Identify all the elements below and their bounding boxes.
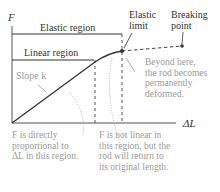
- beyond-note: Beyond here,the rod becomes permanentlyd…: [145, 57, 207, 99]
- breaking-point-label: Breakingpoint: [171, 9, 208, 31]
- slope-label: Slope k: [16, 71, 46, 81]
- elastic-limit-point: [120, 49, 124, 53]
- nonlinear-note: F is not linear inthis region, but the r…: [99, 130, 170, 172]
- force-curve: [12, 51, 122, 123]
- elastic-region-label: Elastic region: [40, 23, 95, 33]
- delta-l-axis-label: ΔL: [183, 118, 196, 129]
- f-axis-label: F: [8, 12, 15, 23]
- linear-region-label: Linear region: [24, 48, 78, 58]
- breaking-point-pointer: [182, 32, 183, 44]
- breaking-point: [180, 44, 184, 48]
- plastic-dashed-curve: [122, 46, 182, 51]
- slope-pointer: [38, 85, 46, 92]
- linear-note: F is directlyproportional to ΔL in this …: [12, 130, 78, 162]
- elastic-limit-pointer: [124, 33, 132, 48]
- elastic-limit-label: Elasticlimit: [129, 9, 156, 31]
- beyond-pointer: [126, 58, 135, 72]
